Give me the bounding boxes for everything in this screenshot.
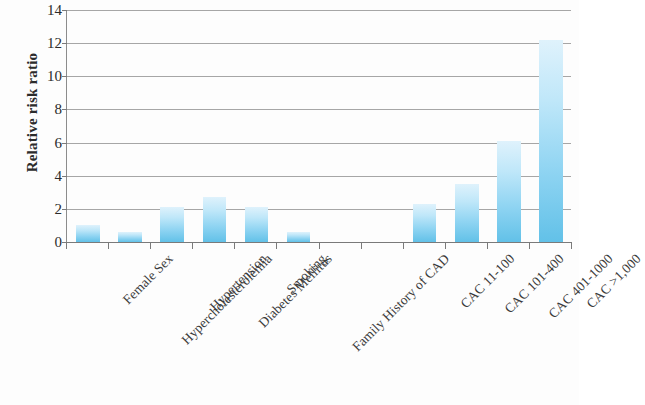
y-tick-label: 14 <box>26 3 62 18</box>
bar[interactable] <box>497 141 521 242</box>
plot-area <box>66 10 571 242</box>
x-axis-tick-labels: Female SexHypercholesterolemiaHypertensi… <box>0 249 579 405</box>
y-tick-label: 12 <box>26 36 62 51</box>
x-tickmark <box>571 242 572 249</box>
bar[interactable] <box>118 232 142 242</box>
bar-slot <box>362 10 404 242</box>
y-tick-label: 8 <box>26 102 62 117</box>
y-tick-label: 4 <box>26 168 62 183</box>
bar[interactable] <box>160 207 184 242</box>
bar-slot <box>404 10 446 242</box>
bar-slot <box>151 10 193 242</box>
bar-slot <box>67 10 109 242</box>
bar[interactable] <box>245 207 269 242</box>
x-tickmark <box>276 242 277 249</box>
y-tick-label: 10 <box>26 69 62 84</box>
x-tickmark <box>445 242 446 249</box>
bar[interactable] <box>287 232 311 242</box>
bar[interactable] <box>76 225 100 242</box>
x-tickmark <box>361 242 362 249</box>
bar[interactable] <box>539 40 563 242</box>
x-tickmark <box>234 242 235 249</box>
bar-slot <box>530 10 572 242</box>
bar-slot <box>193 10 235 242</box>
x-tickmark <box>66 242 67 249</box>
x-tick-label: Hypertension <box>206 251 270 315</box>
y-tick-label: 0 <box>26 235 62 250</box>
x-tickmark <box>529 242 530 249</box>
x-tickmark <box>403 242 404 249</box>
bar-slot <box>109 10 151 242</box>
bar-slot <box>277 10 319 242</box>
y-tick-label: 6 <box>26 135 62 150</box>
bar[interactable] <box>203 197 227 242</box>
bars-group <box>67 10 571 242</box>
bar[interactable] <box>413 204 437 242</box>
x-tick-label: Female Sex <box>119 251 176 308</box>
bar[interactable] <box>455 184 479 242</box>
bar-slot <box>488 10 530 242</box>
x-tickmark <box>487 242 488 249</box>
y-axis-tick-labels: 02468101214 <box>26 10 62 242</box>
bar-slot <box>235 10 277 242</box>
bar-slot <box>320 10 362 242</box>
x-tick-label: Family History of CAD <box>349 251 453 355</box>
bar-slot <box>446 10 488 242</box>
x-tickmark <box>150 242 151 249</box>
x-axis-tickmarks <box>66 242 571 249</box>
y-tick-label: 2 <box>26 201 62 216</box>
x-tickmark <box>192 242 193 249</box>
x-tickmark <box>319 242 320 249</box>
x-tickmark <box>108 242 109 249</box>
